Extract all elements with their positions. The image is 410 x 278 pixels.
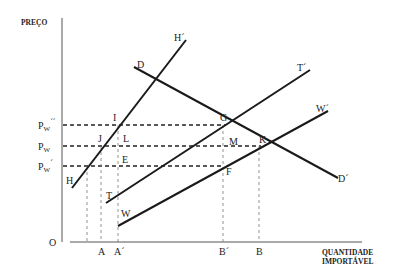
svg-text:PW: PW: [38, 141, 51, 154]
label-t: T: [106, 190, 112, 201]
label-h: H: [66, 175, 73, 186]
svg-text:PW´: PW´: [38, 159, 53, 174]
price-label-pw-double-prime: PW´´: [38, 118, 56, 133]
y-axis-label: PREÇO: [21, 18, 47, 27]
qty-label-a-prime: A´: [114, 246, 125, 257]
label-w: W: [121, 208, 131, 219]
point-k: K: [259, 134, 267, 145]
price-label-pw-prime: PW´: [38, 159, 53, 174]
point-i: I: [113, 112, 116, 123]
qty-label-a: A: [98, 246, 106, 257]
label-h-prime: H´: [174, 32, 185, 43]
point-l: L: [123, 133, 129, 144]
x-axis-label-line2: IMPORTÁVEL: [322, 256, 373, 266]
trade-diagram: PREÇO QUANTIDADE IMPORTÁVEL O PW´´ PW PW…: [0, 0, 410, 278]
point-f: F: [226, 166, 232, 177]
point-m: M: [229, 136, 238, 147]
label-w-prime: W´: [316, 103, 329, 114]
price-label-pw: PW: [38, 141, 51, 154]
point-e: E: [122, 154, 128, 165]
qty-label-b: B: [256, 246, 263, 257]
curve-w: [118, 111, 328, 226]
origin-label: O: [49, 237, 56, 248]
label-d: D: [137, 59, 144, 70]
svg-text:PW´´: PW´´: [38, 118, 56, 133]
point-g: G: [220, 112, 227, 123]
qty-label-b-prime: B´: [219, 246, 229, 257]
label-t-prime: T´: [297, 62, 306, 73]
label-d-prime: D´: [338, 173, 349, 184]
point-j: J: [98, 133, 102, 144]
x-axis-label-line1: QUANTIDADE: [322, 248, 373, 257]
